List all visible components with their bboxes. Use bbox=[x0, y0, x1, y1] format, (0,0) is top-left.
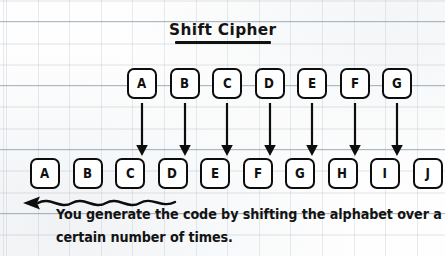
plaintext-box-e: E bbox=[297, 68, 327, 99]
letter-glyph: F bbox=[253, 166, 261, 181]
page-title: Shift Cipher bbox=[169, 21, 276, 38]
map-arrow-f-to-i-icon bbox=[347, 103, 363, 156]
plaintext-box-g: G bbox=[382, 68, 412, 99]
letter-glyph: C bbox=[126, 166, 135, 181]
letter-glyph: E bbox=[211, 166, 219, 181]
letter-glyph: C bbox=[223, 76, 232, 91]
plaintext-box-c: C bbox=[212, 68, 242, 99]
letter-glyph: B bbox=[83, 166, 92, 181]
map-arrow-g-to-j-icon bbox=[389, 103, 405, 156]
ciphertext-box-a: A bbox=[30, 158, 60, 189]
letter-glyph: D bbox=[265, 76, 275, 91]
map-arrow-a-to-d-icon bbox=[134, 103, 150, 156]
shift-cipher-diagram-page: Shift Cipher ABCDEFG ABCDEFGHIJ You gene… bbox=[0, 0, 445, 256]
ciphertext-box-e: E bbox=[200, 158, 230, 189]
title-underline bbox=[175, 41, 271, 44]
letter-glyph: I bbox=[383, 166, 387, 181]
plaintext-box-b: B bbox=[170, 68, 200, 99]
map-arrow-e-to-h-icon bbox=[304, 103, 320, 156]
letter-glyph: B bbox=[180, 76, 189, 91]
plaintext-box-a: A bbox=[127, 68, 157, 99]
letter-glyph: D bbox=[168, 166, 178, 181]
map-arrow-b-to-e-icon bbox=[177, 103, 193, 156]
letter-glyph: J bbox=[425, 166, 429, 181]
map-arrow-c-to-f-icon bbox=[219, 103, 235, 156]
letter-glyph: E bbox=[308, 76, 316, 91]
ciphertext-box-b: B bbox=[73, 158, 103, 189]
plaintext-box-f: F bbox=[340, 68, 370, 99]
letter-glyph: F bbox=[350, 76, 358, 91]
letter-glyph: G bbox=[295, 166, 305, 181]
ciphertext-box-i: I bbox=[370, 158, 400, 189]
ciphertext-box-d: D bbox=[158, 158, 188, 189]
ciphertext-box-g: G bbox=[285, 158, 315, 189]
caption-line-2: certain number of times. bbox=[56, 230, 233, 245]
ciphertext-box-f: F bbox=[243, 158, 273, 189]
diagram-title-block: Shift Cipher bbox=[0, 20, 445, 39]
map-arrow-d-to-g-icon bbox=[262, 103, 278, 156]
letter-glyph: H bbox=[338, 166, 348, 181]
letter-glyph: G bbox=[392, 76, 402, 91]
ciphertext-box-h: H bbox=[328, 158, 358, 189]
ciphertext-box-c: C bbox=[115, 158, 145, 189]
caption-line-1: You generate the code by shifting the al… bbox=[56, 207, 442, 222]
letter-glyph: A bbox=[137, 76, 146, 91]
letter-glyph: A bbox=[40, 166, 49, 181]
plaintext-box-d: D bbox=[255, 68, 285, 99]
ciphertext-box-j: J bbox=[413, 158, 443, 189]
